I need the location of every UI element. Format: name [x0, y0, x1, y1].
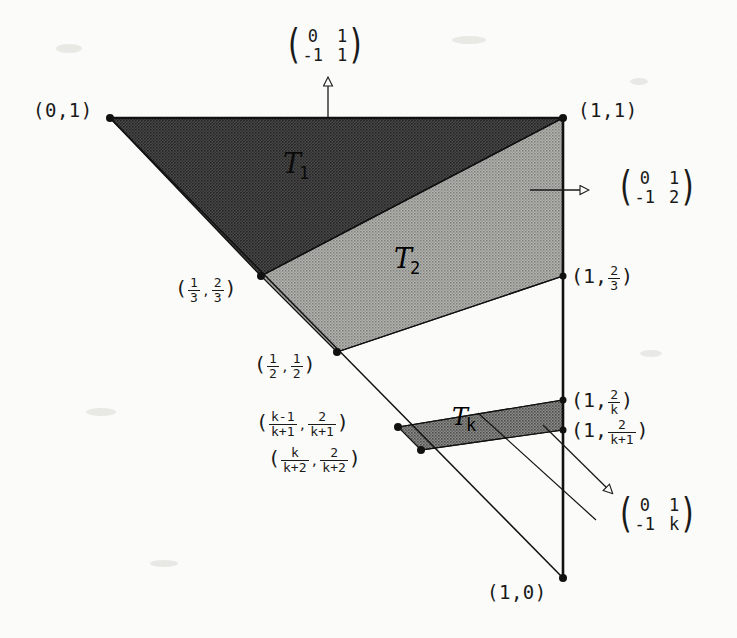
paren-close: ) — [621, 388, 633, 412]
fraction-one-third: 13 — [188, 276, 200, 304]
point-label-one-two-over-kp1: (1,2k+1) — [571, 419, 649, 447]
matrix-paren-close: ) — [350, 29, 362, 60]
paren-open-one: (1, — [571, 418, 607, 442]
matrix-lower-right: ( 0 1 -1 k ) — [618, 495, 696, 533]
matrix-cell-r1c0: -1 — [635, 187, 655, 207]
matrix-cell-r0c0: 0 — [308, 26, 318, 46]
paren-close: ) — [337, 410, 349, 434]
scan-speck — [56, 44, 82, 53]
vertex-dot-1-2overk1 — [560, 427, 567, 434]
vertex-dot-1-0 — [559, 574, 567, 582]
figure-canvas — [0, 0, 737, 638]
comma: , — [281, 359, 289, 374]
vertex-label-0-1: (0,1) — [33, 101, 93, 121]
matrix-cell-r0c1: 1 — [337, 26, 347, 46]
fraction-2-kp1: 2k+1 — [308, 410, 335, 438]
fraction-one-half-x: 12 — [267, 352, 279, 380]
fraction-2-kp2: 2k+2 — [320, 446, 347, 474]
matrix-cells: 0 1 -1 k — [635, 495, 680, 533]
vertex-dot-1-2overk — [560, 397, 567, 404]
paren-open: ( — [268, 446, 280, 470]
vertex-dot-1-2over3 — [560, 273, 567, 280]
matrix-cell-r0c1: 1 — [669, 168, 679, 188]
fraction-k-kp2: kk+2 — [281, 446, 308, 474]
point-label-k-over-kp2: (kk+2,2k+2) — [268, 447, 361, 475]
scan-speck — [640, 350, 662, 357]
vertex-dot-1over3-2over3 — [257, 272, 265, 280]
comma: , — [299, 417, 307, 432]
paren-open-one: (1, — [571, 264, 607, 288]
matrix-cell-r1c0: -1 — [635, 514, 655, 534]
point-label-km1-over-kp1: (k-1k+1,2k+1) — [256, 411, 349, 439]
vertex-dot-0-1 — [106, 114, 114, 122]
matrix-paren-close: ) — [682, 171, 694, 202]
scan-speck — [150, 560, 178, 567]
matrix-top: ( 0 1 -1 1 ) — [286, 26, 364, 64]
vertex-label-1-1: (1,1) — [578, 101, 638, 121]
matrix-cells: 0 1 -1 2 — [635, 168, 680, 206]
matrix-cell-r1c1: 1 — [337, 45, 347, 65]
region-label-T2: T2 — [394, 243, 420, 278]
paren-open: ( — [254, 352, 266, 376]
paren-open: ( — [175, 276, 187, 300]
fraction-two-thirds: 23 — [212, 276, 224, 304]
vertex-dot-k-kp2 — [417, 446, 425, 454]
fraction-two-over-k: 2k — [608, 388, 620, 416]
vertex-dot-1-1 — [559, 114, 567, 122]
farey-triangle-figure: (0,1) (1,1) (1,0) (13,23) (12,12) (k-1k+… — [0, 0, 737, 638]
matrix-right: ( 0 1 -1 2 ) — [618, 168, 696, 206]
matrix-paren-open: ( — [620, 171, 632, 202]
fraction-one-half-y: 12 — [291, 352, 303, 380]
paren-open-one: (1, — [571, 388, 607, 412]
matrix-paren-close: ) — [682, 498, 694, 529]
region-label-Tk: Tk — [452, 403, 476, 435]
scan-speck — [86, 408, 116, 416]
point-label-one-two-thirds: (1,23) — [571, 265, 633, 293]
paren-close: ) — [637, 418, 649, 442]
vertex-dot-1over2-1over2 — [333, 348, 341, 356]
paren-close: ) — [304, 352, 316, 376]
paren-close: ) — [225, 276, 237, 300]
vertex-label-1-0: (1,0) — [487, 583, 547, 603]
vertex-dot-km1-kp1 — [394, 423, 402, 431]
matrix-cell-r0c0: 0 — [640, 495, 650, 515]
paren-open: ( — [256, 410, 268, 434]
matrix-paren-open: ( — [620, 498, 632, 529]
fraction-two-thirds: 23 — [608, 264, 620, 292]
matrix-cell-r0c1: 1 — [669, 495, 679, 515]
region-label-T1: T1 — [283, 148, 309, 183]
fraction-km1-kp1: k-1k+1 — [269, 410, 296, 438]
region-subscript: 1 — [299, 163, 309, 183]
point-label-one-half-one-half: (12,12) — [254, 353, 316, 381]
region-subscript: 2 — [410, 258, 420, 278]
matrix-cell-r1c1: 2 — [669, 187, 679, 207]
comma: , — [311, 453, 319, 468]
region-subscript: k — [466, 415, 476, 435]
point-label-one-third-two-thirds: (13,23) — [175, 277, 237, 305]
fraction-two-over-kp1: 2k+1 — [608, 418, 635, 446]
paren-close: ) — [621, 264, 633, 288]
scan-speck — [630, 78, 648, 85]
scan-speck — [452, 36, 486, 44]
comma: , — [202, 283, 210, 298]
matrix-cells: 0 1 -1 1 — [303, 26, 348, 64]
matrix-cell-r1c0: -1 — [303, 45, 323, 65]
matrix-cell-r0c0: 0 — [640, 168, 650, 188]
point-label-one-two-over-k: (1,2k) — [571, 389, 633, 417]
paren-close: ) — [349, 446, 361, 470]
matrix-cell-r1c1: k — [669, 514, 679, 534]
matrix-paren-open: ( — [288, 29, 300, 60]
